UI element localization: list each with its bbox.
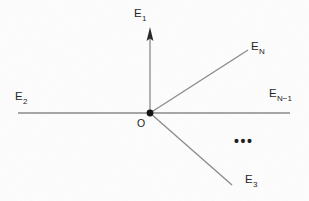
diagram-canvas: O E 1 E 2 E 3 E N E N−1 ••• bbox=[0, 0, 309, 201]
label-e3-subscript: 3 bbox=[253, 180, 258, 189]
axes-diagram-svg: O E 1 E 2 E 3 E N E N−1 ••• bbox=[0, 0, 309, 201]
label-en-base: E bbox=[251, 40, 259, 52]
label-e1-subscript: 1 bbox=[142, 14, 147, 23]
label-e3-base: E bbox=[245, 173, 253, 185]
paper-grain bbox=[0, 0, 309, 201]
label-e2-base: E bbox=[15, 90, 23, 102]
label-e-n-minus-1-subscript: N−1 bbox=[277, 94, 292, 103]
label-en-subscript: N bbox=[259, 47, 265, 56]
label-e1-base: E bbox=[134, 7, 142, 19]
origin-point bbox=[147, 110, 154, 117]
ellipsis-label: ••• bbox=[234, 133, 254, 149]
origin-label: O bbox=[137, 117, 145, 129]
label-e2-subscript: 2 bbox=[23, 97, 28, 106]
label-e-n-minus-1-base: E bbox=[269, 87, 277, 99]
